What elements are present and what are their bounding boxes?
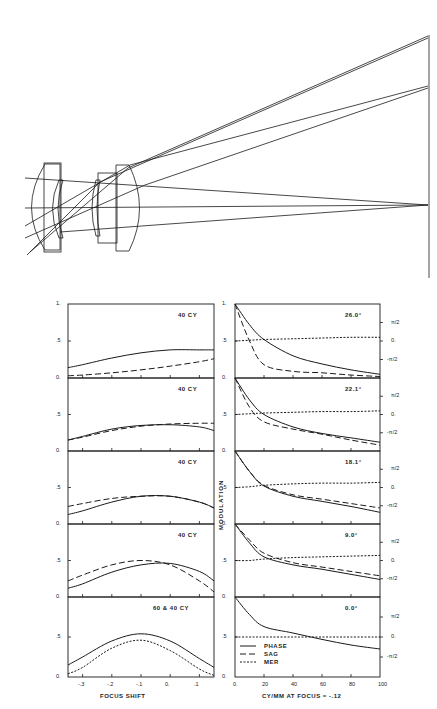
legend-swatch — [240, 651, 258, 657]
legend-item: MER — [240, 658, 287, 666]
series-line — [68, 496, 214, 508]
y-tick: .5 — [56, 484, 61, 490]
y-tick: .5 — [56, 633, 61, 639]
panel-label: 40 CY — [178, 532, 197, 538]
series-line — [68, 359, 214, 376]
series-line — [235, 524, 380, 579]
legend-swatch — [240, 659, 258, 665]
right-xlabel: CY/MM AT FOCUS = -.12 — [262, 693, 341, 699]
phase-tick: 0. — [391, 337, 396, 343]
plot-frame — [235, 524, 380, 597]
phase-tick: -π/2 — [387, 653, 397, 659]
series-line — [68, 423, 214, 440]
panel-label: 0.0° — [345, 605, 358, 611]
phase-tick: π/2 — [391, 392, 399, 398]
phase-tick: π/2 — [391, 538, 399, 544]
phase-tick: -π/2 — [387, 356, 397, 362]
x-tick: 100 — [378, 681, 387, 687]
panel-label: 26.0° — [345, 312, 362, 318]
y-tick: .5 — [222, 411, 227, 417]
series-line — [68, 496, 214, 515]
phase-tick: -π/2 — [387, 429, 397, 435]
left-xlabel: FOCUS SHIFT — [100, 693, 146, 699]
y-tick: .5 — [222, 557, 227, 563]
lens-element-1 — [32, 164, 61, 250]
legend-label: PHASE — [264, 643, 287, 649]
series-line — [68, 563, 214, 588]
legend-swatch — [240, 643, 258, 649]
y-tick: 0. — [222, 447, 227, 453]
y-tick: 0. — [56, 593, 61, 599]
y-tick: 0. — [222, 673, 227, 679]
x-tick: 40 — [291, 681, 297, 687]
panel-label: 60 & 40 CY — [153, 605, 189, 611]
legend-item: SAG — [240, 650, 287, 658]
series-line — [68, 640, 214, 675]
phase-tick: -π/2 — [387, 502, 397, 508]
series-line — [235, 555, 380, 560]
legend-label: SAG — [264, 651, 279, 657]
lens-element-4 — [116, 165, 140, 251]
lens-ray-diagram — [0, 0, 437, 290]
legend: PHASESAGMER — [240, 642, 287, 666]
y-tick: 1. — [56, 300, 61, 306]
y-tick: .5 — [56, 411, 61, 417]
phase-tick: π/2 — [391, 613, 399, 619]
y-tick: .5 — [56, 557, 61, 563]
series-line — [235, 337, 380, 341]
legend-item: PHASE — [240, 642, 287, 650]
y-tick: .5 — [56, 337, 61, 343]
x-tick: 60 — [320, 681, 326, 687]
x-tick: .1 — [194, 681, 199, 687]
y-tick: 0. — [56, 520, 61, 526]
phase-tick: 0. — [391, 557, 396, 563]
x-tick: 80 — [349, 681, 355, 687]
panel-label: 9.0° — [345, 532, 358, 538]
phase-tick: -π/2 — [387, 575, 397, 581]
y-tick: .5 — [222, 337, 227, 343]
y-tick: 0. — [56, 673, 61, 679]
x-tick: -.3 — [78, 681, 84, 687]
x-tick: 0. — [165, 681, 170, 687]
panel-label: 22.1° — [345, 386, 362, 392]
series-line — [235, 411, 380, 415]
series-line — [235, 524, 380, 576]
x-tick: -.2 — [107, 681, 113, 687]
series-line — [68, 425, 214, 440]
series-line — [68, 350, 214, 368]
panel-label: 40 CY — [178, 386, 197, 392]
x-tick: -.1 — [136, 681, 142, 687]
x-tick: 0. — [233, 681, 238, 687]
phase-tick: 0. — [391, 633, 396, 639]
legend-label: MER — [264, 659, 279, 665]
y-tick: 0. — [56, 447, 61, 453]
x-tick: 20 — [262, 681, 268, 687]
y-tick: 0. — [222, 374, 227, 380]
series-line — [235, 482, 380, 487]
panel-label: 18.1° — [345, 459, 362, 465]
panel-label: 40 CY — [178, 312, 197, 318]
y-tick: 0. — [56, 374, 61, 380]
y-tick: 1. — [222, 300, 227, 306]
phase-tick: 0. — [391, 484, 396, 490]
series-line — [68, 561, 214, 592]
phase-tick: π/2 — [391, 319, 399, 325]
series-line — [68, 634, 214, 668]
modulation-ylabel: MODULATION — [218, 480, 224, 530]
plot-frame — [68, 597, 214, 677]
y-tick: .5 — [222, 633, 227, 639]
phase-tick: 0. — [391, 411, 396, 417]
phase-tick: π/2 — [391, 465, 399, 471]
y-tick: 0. — [222, 593, 227, 599]
panel-label: 40 CY — [178, 459, 197, 465]
